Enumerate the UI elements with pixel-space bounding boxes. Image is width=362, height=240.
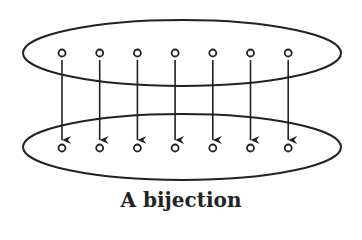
top-element-dot — [172, 50, 179, 57]
top-element-dot — [134, 50, 141, 57]
bottom-set-ellipse — [23, 114, 341, 180]
bottom-element-dot — [285, 145, 292, 152]
top-set-ellipse — [23, 20, 341, 86]
bottom-element-dot — [59, 145, 66, 152]
top-element-dot — [209, 50, 216, 57]
bottom-element-dot — [209, 145, 216, 152]
top-element-dot — [285, 50, 292, 57]
diagram-caption: A bijection — [0, 188, 362, 212]
bottom-element-dot — [172, 145, 179, 152]
top-element-dot — [96, 50, 103, 57]
top-element-dot — [247, 50, 254, 57]
bottom-element-dot — [247, 145, 254, 152]
bottom-element-dot — [134, 145, 141, 152]
top-element-dot — [59, 50, 66, 57]
bottom-element-dot — [96, 145, 103, 152]
